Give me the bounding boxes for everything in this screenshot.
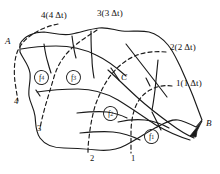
label-isochrone-3: 3(3 Δt) bbox=[97, 9, 123, 18]
tick-mark-3 bbox=[36, 90, 40, 96]
region-f1-index: 1 bbox=[151, 133, 155, 139]
label-point-b: B bbox=[206, 119, 212, 128]
label-tick-1: 1 bbox=[131, 154, 135, 163]
label-point-a: A bbox=[5, 37, 11, 46]
label-isochrone-2: 2(2 Δt) bbox=[170, 43, 196, 52]
region-f2-index: 2 bbox=[110, 110, 114, 116]
ray-topleft-branch bbox=[44, 44, 51, 73]
isochrone-4 bbox=[14, 24, 58, 101]
ray-top-vertical bbox=[91, 31, 94, 78]
label-isochrone-4: 4(4 Δt) bbox=[41, 11, 67, 20]
label-tick-2: 2 bbox=[90, 154, 94, 163]
ray-right-upper-short bbox=[152, 60, 158, 110]
arrowhead-b bbox=[190, 121, 202, 137]
ray-upper-right bbox=[126, 44, 167, 97]
label-isochrone-1: 1(1 Δt) bbox=[176, 79, 202, 88]
figure-container: 4(4 Δt) 3(3 Δt) 2(2 Δt) 1(1 Δt) 4 3 2 1 … bbox=[0, 0, 220, 174]
ray-lower-connector bbox=[118, 120, 169, 128]
region-f3-index: 3 bbox=[73, 74, 77, 80]
label-point-c: C bbox=[121, 73, 127, 82]
label-tick-4: 4 bbox=[14, 97, 18, 106]
label-tick-3: 3 bbox=[37, 124, 41, 133]
tick-mark-right bbox=[146, 78, 150, 86]
region-f4-index: 4 bbox=[41, 74, 45, 80]
